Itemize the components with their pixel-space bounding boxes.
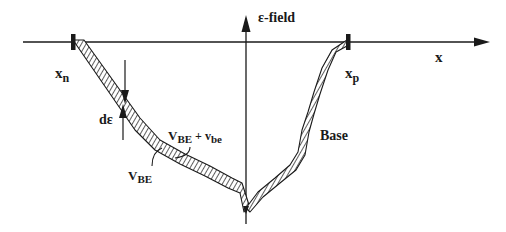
x-axis-label: x bbox=[435, 49, 443, 65]
x-axis bbox=[23, 38, 490, 47]
e-field-axis-label: ε-field bbox=[258, 10, 295, 25]
field-profile-curve bbox=[73, 40, 347, 214]
xn-label: xn bbox=[55, 65, 70, 85]
vbe-label: VBE bbox=[128, 168, 152, 185]
xp-label: xp bbox=[345, 65, 360, 85]
base-region-label: Base bbox=[320, 128, 348, 143]
d-epsilon-label: dε bbox=[99, 112, 113, 127]
xp-marker bbox=[346, 34, 351, 50]
vbe-plus-vbe-label: VBE + vbe bbox=[168, 128, 222, 145]
field-band-right bbox=[246, 40, 347, 212]
diagram-canvas: ε-field x xn xp dε VBE + vbe VBE Base bbox=[0, 0, 506, 232]
x-axis-arrow-icon bbox=[474, 38, 490, 47]
xn-marker bbox=[71, 34, 76, 50]
e-field-axis-arrow-icon bbox=[242, 15, 251, 32]
